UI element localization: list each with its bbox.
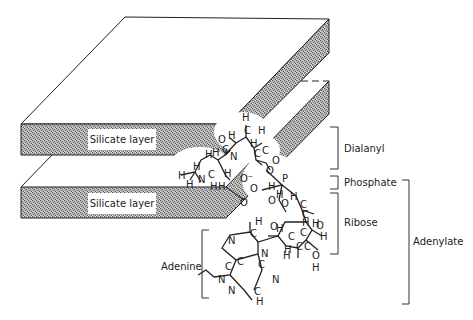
svg-text:H: H bbox=[255, 216, 263, 227]
svg-text:H: H bbox=[224, 168, 232, 179]
svg-text:N: N bbox=[218, 274, 225, 285]
ribose-label: Ribose bbox=[344, 217, 378, 228]
svg-text:H: H bbox=[312, 262, 320, 273]
svg-text:C: C bbox=[300, 227, 307, 238]
svg-text:H: H bbox=[186, 179, 194, 190]
svg-text:O: O bbox=[268, 195, 276, 206]
dialanyl-label: Dialanyl bbox=[344, 143, 385, 154]
svg-text:N: N bbox=[261, 248, 268, 259]
svg-text:C: C bbox=[244, 125, 251, 136]
upper-layer-label: Silicate layer bbox=[90, 134, 156, 145]
diagram-canvas: Silicate layer Silicate layer bbox=[0, 0, 473, 320]
svg-text:C: C bbox=[262, 145, 269, 156]
ribose-bracket bbox=[330, 193, 338, 254]
svg-text:N: N bbox=[230, 151, 237, 162]
svg-text:O: O bbox=[266, 165, 274, 176]
adenylate-bracket bbox=[402, 180, 409, 304]
svg-text:O: O bbox=[312, 250, 320, 261]
svg-text:N: N bbox=[228, 285, 235, 296]
svg-text:O: O bbox=[250, 183, 258, 194]
svg-text:H: H bbox=[218, 181, 226, 192]
adenine-bracket bbox=[202, 230, 209, 298]
svg-text:C: C bbox=[222, 144, 229, 155]
svg-text:H: H bbox=[276, 189, 284, 200]
svg-text:H: H bbox=[178, 170, 186, 181]
phosphate-label: Phosphate bbox=[344, 177, 397, 188]
svg-text:H: H bbox=[276, 223, 284, 234]
dialanyl-bracket bbox=[330, 127, 338, 169]
svg-text:N: N bbox=[198, 174, 205, 185]
svg-text:H: H bbox=[283, 250, 291, 261]
svg-text:C: C bbox=[296, 241, 303, 252]
adenylate-label: Adenylate bbox=[413, 236, 463, 247]
svg-text:H: H bbox=[193, 161, 201, 172]
svg-text:H: H bbox=[212, 147, 220, 158]
svg-text:P: P bbox=[282, 173, 288, 184]
svg-text:C: C bbox=[254, 148, 261, 159]
svg-text:O: O bbox=[316, 220, 324, 231]
lower-layer-label: Silicate layer bbox=[90, 198, 156, 209]
svg-text:C: C bbox=[225, 261, 232, 272]
svg-text:H: H bbox=[320, 231, 328, 242]
phosphate-bracket bbox=[330, 176, 338, 189]
svg-text:H: H bbox=[268, 181, 276, 192]
svg-text:N: N bbox=[272, 274, 279, 285]
adenine-label: Adenine bbox=[161, 261, 202, 272]
svg-text:H: H bbox=[242, 112, 250, 123]
svg-text:H: H bbox=[210, 181, 218, 192]
svg-text:C: C bbox=[288, 231, 295, 242]
svg-text:H: H bbox=[258, 125, 266, 136]
svg-text:C: C bbox=[237, 256, 244, 267]
svg-text:C: C bbox=[208, 169, 215, 180]
svg-text:N: N bbox=[228, 235, 235, 246]
svg-text:C: C bbox=[304, 241, 311, 252]
svg-text:H: H bbox=[228, 130, 236, 141]
svg-text:C: C bbox=[258, 259, 265, 270]
svg-text:H: H bbox=[256, 296, 264, 307]
svg-text:C: C bbox=[250, 228, 257, 239]
svg-text:O: O bbox=[240, 197, 248, 208]
svg-text:H: H bbox=[290, 191, 298, 202]
